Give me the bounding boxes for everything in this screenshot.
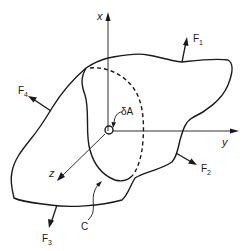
y-axis-label: y (221, 136, 229, 148)
body-outline (11, 54, 232, 206)
area-element-label: δA (121, 106, 134, 117)
force-f3-label: F3 (42, 233, 52, 246)
cut-curve-solid (82, 68, 132, 181)
z-axis-arrowhead (57, 172, 65, 181)
body-diagram: x y z δA C F1 F2 F3 F4 (0, 0, 247, 251)
z-axis (60, 134, 105, 178)
force-f4-label: F4 (18, 85, 28, 98)
x-axis-label: x (96, 10, 103, 22)
y-axis-arrowhead (230, 129, 239, 134)
x-axis-arrowhead (106, 12, 111, 21)
area-element-circle (105, 126, 113, 134)
force-f2-arrowhead (188, 159, 197, 166)
force-f4-arrow (33, 99, 51, 111)
z-axis-label: z (48, 167, 55, 179)
force-f3-arrowhead (48, 219, 54, 228)
cut-curve-label: C (81, 221, 88, 232)
force-f1-arrowhead (183, 37, 189, 46)
cut-curve-leader (88, 183, 100, 220)
force-f2-label: F2 (201, 163, 211, 176)
cut-curve-dashed (90, 68, 143, 176)
force-f1-label: F1 (193, 33, 203, 46)
